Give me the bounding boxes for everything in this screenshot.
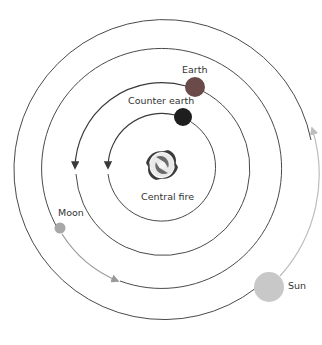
moon-label: Moon — [58, 207, 84, 218]
earth-body — [185, 77, 205, 97]
sun-motion-arrow — [280, 128, 319, 276]
central-fire-icon — [146, 150, 178, 180]
counter-earth-label: Counter earth — [128, 95, 194, 106]
moon-body — [55, 223, 66, 234]
pythagorean-cosmos-diagram: Earth Counter earth Central fire Moon Su… — [0, 0, 322, 345]
central-fire-label: Central fire — [141, 191, 194, 202]
earth-label: Earth — [182, 64, 207, 75]
sun-body — [254, 272, 284, 302]
counter-earth-body — [174, 108, 192, 126]
moon-motion-arrow — [62, 234, 118, 281]
sun-label: Sun — [288, 280, 306, 291]
